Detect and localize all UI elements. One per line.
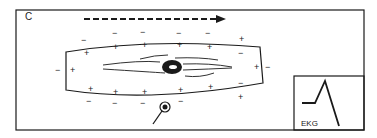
svg-text:+: +: [238, 92, 243, 102]
svg-text:−: −: [112, 98, 117, 108]
svg-text:−: −: [176, 28, 181, 38]
ekg-label: EKG: [301, 119, 318, 128]
svg-text:+: +: [84, 48, 89, 58]
svg-text:−: −: [140, 27, 145, 37]
nucleus-icon: [162, 60, 182, 74]
svg-text:−: −: [178, 96, 183, 106]
svg-text:+: +: [70, 65, 75, 75]
svg-text:+: +: [113, 42, 118, 52]
svg-text:+: +: [177, 40, 182, 50]
svg-text:−: −: [81, 35, 86, 45]
svg-text:+: +: [208, 82, 213, 92]
svg-text:−: −: [205, 28, 210, 38]
svg-text:−: −: [86, 96, 91, 106]
svg-text:+: +: [142, 87, 147, 97]
svg-text:−: −: [112, 28, 117, 38]
svg-text:−: −: [265, 62, 270, 72]
svg-text:+: +: [254, 62, 259, 72]
svg-text:−: −: [238, 48, 243, 58]
svg-text:+: +: [88, 84, 93, 94]
svg-text:+: +: [142, 40, 147, 50]
cardiac-cell-diagram: − − − − − + + + + + + − − + + − + + + + …: [0, 0, 377, 138]
svg-text:−: −: [140, 98, 145, 108]
svg-text:+: +: [207, 42, 212, 52]
svg-text:−: −: [238, 78, 243, 88]
svg-text:+: +: [239, 34, 244, 44]
panel-label: C: [25, 11, 32, 22]
electrode-icon: [153, 102, 170, 124]
svg-text:+: +: [113, 87, 118, 97]
svg-text:+: +: [178, 85, 183, 95]
dashed-arrow-icon: [84, 15, 226, 23]
svg-text:−: −: [55, 65, 60, 75]
